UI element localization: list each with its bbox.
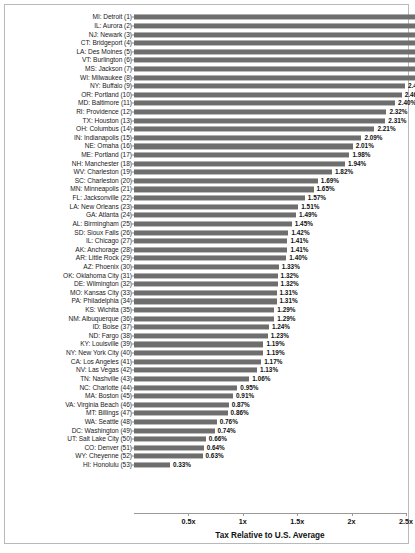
bar	[134, 178, 318, 183]
category-label: ME: Portland (17)	[81, 152, 132, 159]
bar-row: DE: Wilmington (32)1.32%	[5, 280, 408, 289]
bar	[134, 49, 415, 54]
bar-value-label: 1.13%	[260, 367, 278, 373]
bar	[134, 307, 274, 312]
bar-row: VT: Burlington (6)2.67%	[5, 56, 408, 65]
bar-row: SC: Charleston (20)1.69%	[5, 177, 408, 186]
bar-value-label: 1.42%	[291, 229, 309, 235]
bar-value-label: 1.98%	[352, 152, 370, 158]
category-label: IL: Chicago (27)	[86, 238, 132, 245]
bar-value-label: 1.31%	[280, 290, 298, 296]
category-label: MO: Kansas City (33)	[70, 290, 132, 297]
bar-value-label: 1.40%	[289, 255, 307, 261]
bar	[134, 23, 415, 28]
bar-row: CO: Denver (51)0.64%	[5, 443, 408, 452]
bar-value-label: 2.49%	[408, 83, 415, 89]
bar-value-label: 1.24%	[272, 324, 290, 330]
bar-value-label: 0.63%	[206, 453, 224, 459]
bar	[134, 402, 229, 407]
x-axis-tick-mark	[406, 513, 407, 516]
bar	[134, 256, 286, 261]
bar-row: AZ: Phoenix (30)1.33%	[5, 263, 408, 272]
category-label: SD: Sioux Falls (26)	[74, 229, 132, 236]
bar-row: ME: Portland (17)1.98%	[5, 151, 408, 160]
x-axis-tick-mark	[243, 513, 244, 516]
category-label: NJ: Newark (3)	[89, 31, 132, 38]
bar	[134, 92, 402, 97]
bar-value-label: 1.41%	[290, 238, 308, 244]
bar-row: HI: Honolulu (53)0.33%	[5, 461, 408, 470]
bar-row: MS: Jackson (7)2.64%	[5, 65, 408, 74]
bar	[134, 333, 268, 338]
bar	[134, 135, 361, 140]
category-label: CO: Denver (51)	[84, 444, 132, 451]
bar	[134, 221, 292, 226]
bar	[134, 299, 277, 304]
bar	[134, 419, 217, 424]
bar	[134, 376, 249, 381]
x-axis-tick-label: 0.5x	[181, 518, 195, 525]
bar-value-label: 1.94%	[348, 160, 366, 166]
bar-row: WI: Milwaukee (8)2.58%	[5, 73, 408, 82]
plot-area: MI: Detroit (1)3.74%IL: Aurora (2)3.44%N…	[5, 5, 408, 543]
category-label: NC: Charlotte (44)	[79, 384, 132, 391]
bar-value-label: 2.21%	[377, 126, 395, 132]
bar	[134, 118, 385, 123]
category-label: MT: Billings (47)	[86, 410, 132, 417]
bar-row: NE: Omaha (16)2.01%	[5, 142, 408, 151]
bar-row: IL: Chicago (27)1.41%	[5, 237, 408, 246]
bar	[134, 282, 278, 287]
bar-value-label: 1.82%	[335, 169, 353, 175]
bar-row: WY: Cheyenne (52)0.63%	[5, 452, 408, 461]
x-axis-tick-mark	[352, 513, 353, 516]
bar-row: AK: Anchorage (28)1.41%	[5, 245, 408, 254]
category-label: LA: Des Moines (5)	[76, 48, 132, 55]
category-label: WI: Milwaukee (8)	[80, 74, 132, 81]
bar	[134, 41, 415, 46]
bar-row: WA: Seattle (48)0.76%	[5, 418, 408, 427]
bar-row: DC: Washington (49)0.74%	[5, 426, 408, 435]
category-label: MD: Baltimore (11)	[78, 100, 132, 107]
bar-row: MA: Boston (45)0.91%	[5, 392, 408, 401]
bar-value-label: 0.66%	[209, 436, 227, 442]
bar	[134, 445, 204, 450]
category-label: AZ: Phoenix (30)	[83, 264, 132, 271]
bar-value-label: 1.31%	[280, 298, 298, 304]
bar-row: NC: Charlotte (44)0.95%	[5, 383, 408, 392]
x-axis-title: Tax Relative to U.S. Average	[134, 532, 406, 540]
bar-value-label: 1.29%	[277, 307, 295, 313]
bar-row: WV: Charleston (19)1.82%	[5, 168, 408, 177]
x-axis-tick-mark	[188, 513, 189, 516]
category-label: KS: Wichita (35)	[85, 307, 132, 314]
bar-rows: MI: Detroit (1)3.74%IL: Aurora (2)3.44%N…	[5, 13, 408, 469]
category-label: MA: Boston (45)	[85, 393, 132, 400]
bar-value-label: 0.91%	[236, 393, 254, 399]
bar-row: CT: Bridgeport (4)2.78%	[5, 39, 408, 48]
category-label: ND: Fargo (38)	[89, 333, 132, 340]
bar-row: MT: Billings (47)0.86%	[5, 409, 408, 418]
category-label: LA: New Orleans (23)	[70, 203, 132, 210]
bar	[134, 359, 261, 364]
bar	[134, 84, 405, 89]
category-label: IN: Indianapolis (15)	[74, 135, 132, 142]
category-label: NH: Manchester (18)	[72, 160, 132, 167]
bar	[134, 32, 415, 37]
category-label: GA: Atlanta (24)	[86, 212, 132, 219]
bar	[134, 66, 415, 71]
category-label: AK: Anchorage (28)	[75, 246, 132, 253]
bar-row: CA: Los Angeles (41)1.17%	[5, 357, 408, 366]
category-label: NY: New York City (40)	[66, 350, 132, 357]
category-label: NY: Buffalo (9)	[90, 83, 132, 90]
category-label: ID: Boise (37)	[92, 324, 132, 331]
bar	[134, 437, 206, 442]
bar-value-label: 1.32%	[281, 272, 299, 278]
bar-row: AR: Little Rock (29)1.40%	[5, 254, 408, 263]
bar-value-label: 1.19%	[266, 350, 284, 356]
bar-value-label: 1.06%	[252, 376, 270, 382]
bar	[134, 230, 288, 235]
category-label: DE: Wilmington (32)	[74, 281, 132, 288]
category-label: IL: Aurora (2)	[94, 23, 132, 30]
category-label: HI: Honolulu (53)	[83, 462, 132, 469]
bar-value-label: 2.31%	[388, 117, 406, 123]
category-label: OK: Oklahoma City (31)	[63, 272, 132, 279]
